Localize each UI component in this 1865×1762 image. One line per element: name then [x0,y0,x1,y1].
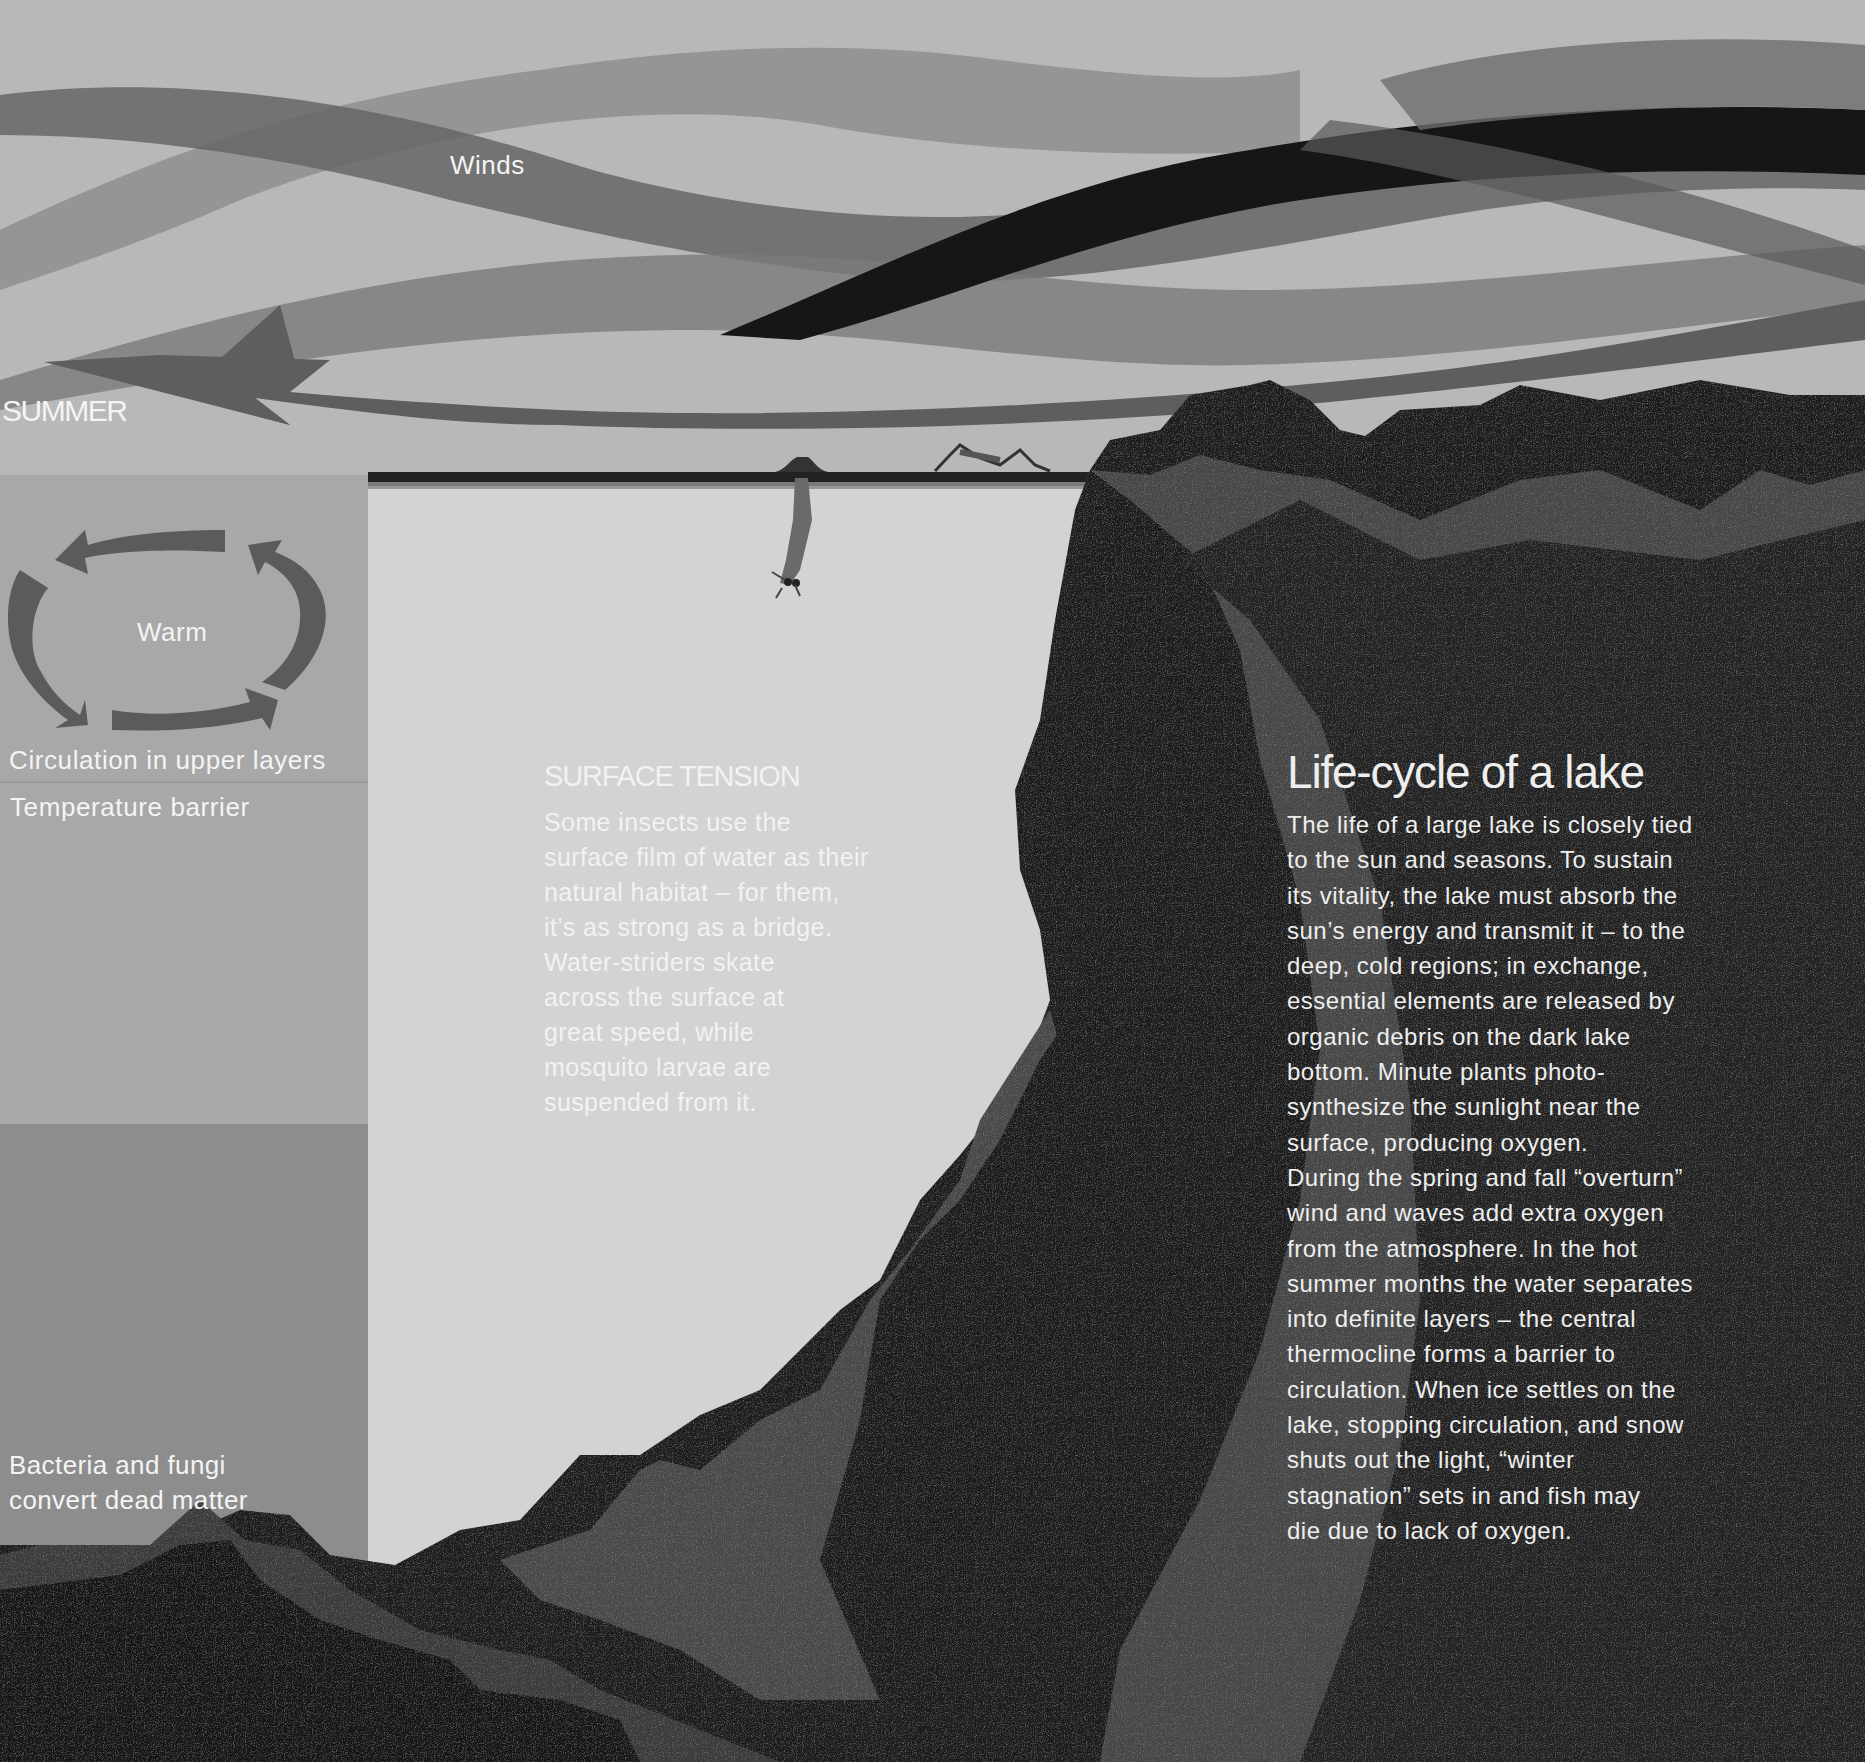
article-line: essential elements are released by [1287,983,1767,1018]
bacteria-label-line: convert dead matter [9,1483,248,1518]
life-cycle-article: Life-cycle of a lake The life of a large… [1287,745,1767,1548]
lake-diagram: Winds SUMMER Warm Circulation in upper l… [0,0,1865,1762]
caption-line: Some insects use the [544,805,914,840]
article-line: bottom. Minute plants photo- [1287,1054,1767,1089]
caption-line: surface film of water as their [544,840,914,875]
article-line: thermocline forms a barrier to [1287,1336,1767,1371]
warm-label: Warm [137,617,207,648]
bacteria-label-line: Bacteria and fungi [9,1448,248,1483]
caption-line: mosquito larvae are [544,1050,914,1085]
article-line: from the atmosphere. In the hot [1287,1231,1767,1266]
surface-tension-title: SURFACE TENSION [544,760,914,793]
article-line: lake, stopping circulation, and snow [1287,1407,1767,1442]
article-line: summer months the water separates [1287,1266,1767,1301]
article-line: sun’s energy and transmit it – to the [1287,913,1767,948]
article-line: stagnation” sets in and fish may [1287,1478,1767,1513]
life-cycle-title: Life-cycle of a lake [1287,745,1767,799]
caption-line: it’s as strong as a bridge. [544,910,914,945]
article-line: The life of a large lake is closely tied [1287,807,1767,842]
article-line: into definite layers – the central [1287,1301,1767,1336]
article-line: to the sun and seasons. To sustain [1287,842,1767,877]
article-line: surface, producing oxygen. [1287,1125,1767,1160]
article-line: synthesize the sunlight near the [1287,1089,1767,1124]
article-line: shuts out the light, “winter [1287,1442,1767,1477]
article-line: organic debris on the dark lake [1287,1019,1767,1054]
caption-line: across the surface at [544,980,914,1015]
winds-label: Winds [450,150,525,181]
caption-line: natural habitat – for them, [544,875,914,910]
caption-line: suspended from it. [544,1085,914,1120]
article-line: deep, cold regions; in exchange, [1287,948,1767,983]
surface-tension-caption: SURFACE TENSION Some insects use the sur… [544,760,914,1120]
article-line: die due to lack of oxygen. [1287,1513,1767,1548]
temperature-barrier-label: Temperature barrier [10,792,250,823]
article-line: its vitality, the lake must absorb the [1287,878,1767,913]
caption-line: Water-striders skate [544,945,914,980]
article-line: circulation. When ice settles on the [1287,1372,1767,1407]
article-line: wind and waves add extra oxygen [1287,1195,1767,1230]
bacteria-label: Bacteria and fungi convert dead matter [9,1448,248,1518]
article-line: During the spring and fall “overturn” [1287,1160,1767,1195]
season-label: SUMMER [2,394,126,428]
caption-line: great speed, while [544,1015,914,1050]
circulation-label: Circulation in upper layers [9,745,326,776]
